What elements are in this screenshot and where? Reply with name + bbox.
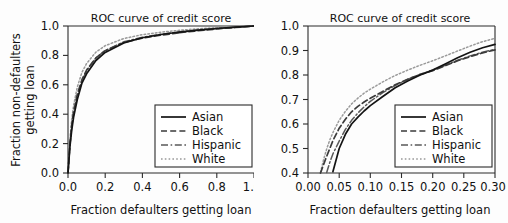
left-xaxis-label: Fraction defaulters getting loan (71, 203, 252, 217)
left-ytick-5: 1.0 (41, 19, 59, 33)
right-ytick-0: 0.4 (281, 166, 299, 180)
right-xaxis-label: Fraction defaulters getting loan (310, 203, 491, 217)
roc-figure: ROC curve of credit score Fraction non-d… (0, 0, 508, 223)
right-legend[interactable]: Asian Black Hispanic White (395, 105, 492, 167)
right-panel-svg: ROC curve of credit score Fraction defau… (254, 0, 508, 223)
right-legend-label-black: Black (432, 124, 463, 138)
left-panel-svg: ROC curve of credit score Fraction non-d… (0, 0, 254, 223)
left-ytick-marks (63, 26, 68, 173)
right-ytick-3: 0.7 (281, 93, 299, 107)
left-xtick-0: 0.0 (59, 180, 77, 194)
left-xtick-4: 0.8 (208, 180, 226, 194)
right-xtick-2: 0.10 (357, 180, 383, 194)
left-chart-title: ROC curve of credit score (91, 12, 232, 25)
right-xtick-3: 0.15 (389, 180, 415, 194)
right-ytick-5: 0.9 (281, 44, 299, 58)
left-legend-label-white: White (192, 152, 225, 166)
left-ytick-1: 0.2 (41, 137, 59, 151)
right-legend-label-hispanic: Hispanic (432, 138, 481, 152)
right-xtick-marks (308, 173, 495, 178)
left-legend-label-black: Black (192, 124, 223, 138)
left-xtick-2: 0.4 (133, 180, 151, 194)
right-ytick-6: 1.0 (281, 19, 299, 33)
right-xtick-6: 0.30 (480, 180, 506, 194)
chart-panel-left: ROC curve of credit score Fraction non-d… (0, 0, 254, 223)
right-legend-label-asian: Asian (432, 110, 463, 124)
left-ytick-3: 0.6 (41, 78, 59, 92)
right-xtick-0: 0.00 (295, 180, 321, 194)
right-ytick-marks (303, 26, 308, 173)
left-yaxis-label-line2: getting loan (23, 65, 37, 134)
left-xtick-marks (68, 173, 254, 178)
left-xtick-1: 0.2 (96, 180, 114, 194)
right-legend-label-white: White (432, 152, 465, 166)
left-yaxis-label-line1: Fraction non-defaulters (9, 33, 23, 167)
right-chart-title: ROC curve of credit score (330, 12, 471, 25)
right-ytick-4: 0.8 (281, 68, 299, 82)
left-legend-label-hispanic: Hispanic (192, 138, 241, 152)
left-xtick-3: 0.6 (170, 180, 188, 194)
left-ytick-0: 0.0 (41, 166, 59, 180)
left-ytick-4: 0.8 (41, 48, 59, 62)
chart-panel-right: ROC curve of credit score Fraction defau… (254, 0, 508, 223)
right-ytick-1: 0.5 (281, 142, 299, 156)
left-xtick-5: 1.0 (243, 180, 254, 194)
left-legend[interactable]: Asian Black Hispanic White (155, 105, 252, 167)
right-xtick-1: 0.05 (326, 180, 352, 194)
right-xtick-4: 0.20 (420, 180, 446, 194)
left-legend-label-asian: Asian (192, 110, 223, 124)
right-ytick-2: 0.6 (281, 117, 299, 131)
right-xtick-5: 0.25 (451, 180, 477, 194)
left-ytick-2: 0.4 (41, 107, 59, 121)
